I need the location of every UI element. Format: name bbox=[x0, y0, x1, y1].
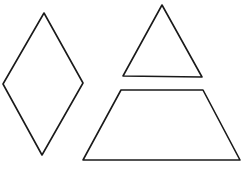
triangle-shape bbox=[123, 5, 202, 77]
shapes-diagram bbox=[0, 0, 241, 174]
rhombus-shape bbox=[3, 13, 83, 155]
trapezoid-shape bbox=[83, 90, 240, 160]
